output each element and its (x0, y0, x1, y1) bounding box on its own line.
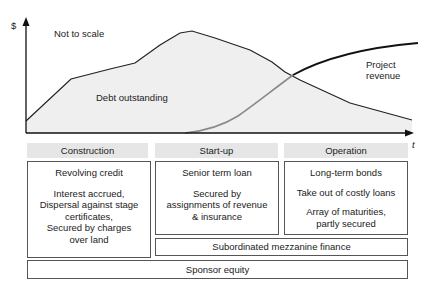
mezzanine-finance-bar: Subordinated mezzanine finance (155, 238, 408, 256)
start-up-detail-line: Secured by (156, 188, 278, 200)
revolving-credit-text: Revolving credit (28, 167, 150, 179)
construction-detail-line: Interest accrued, (28, 188, 150, 200)
start-up-detail-line: assignments of revenue (156, 199, 278, 211)
phase-header-operation: Operation (284, 143, 408, 158)
debt-outstanding-label: Debt outstanding (96, 92, 168, 103)
long-term-bonds-text: Long-term bonds (285, 167, 407, 179)
operation-detail-line: partly secured (285, 218, 407, 230)
construction-detail-line: certificates, (28, 211, 150, 223)
operation-financing-box: Long-term bonds Take out of costly loans… (284, 161, 408, 235)
senior-term-loan-text: Senior term loan (156, 167, 278, 179)
construction-detail-line: Secured by charges (28, 222, 150, 234)
phase-header-start-up: Start-up (155, 143, 278, 158)
project-revenue-label-line2: revenue (366, 70, 400, 81)
construction-detail-line: over land (28, 234, 150, 246)
start-up-financing-box: Senior term loan Secured by assignments … (155, 161, 279, 235)
operation-detail-line: Array of maturities, (285, 206, 407, 218)
start-up-detail-line: & insurance (156, 211, 278, 223)
sponsor-equity-bar: Sponsor equity (27, 260, 408, 279)
project-revenue-label: Project revenue (366, 59, 400, 81)
y-axis-arrow-icon (23, 17, 30, 26)
operation-detail-line: Take out of costly loans (285, 187, 407, 199)
y-axis-label: $ (11, 20, 16, 31)
construction-financing-box: Revolving credit Interest accrued, Dispe… (27, 161, 151, 258)
debt-outstanding-area (26, 31, 412, 133)
construction-detail-line: Dispersal against stage (28, 199, 150, 211)
project-revenue-label-line1: Project (366, 59, 400, 70)
phase-header-construction: Construction (27, 143, 148, 158)
x-axis-label: t (412, 139, 415, 150)
not-to-scale-note: Not to scale (54, 28, 104, 39)
